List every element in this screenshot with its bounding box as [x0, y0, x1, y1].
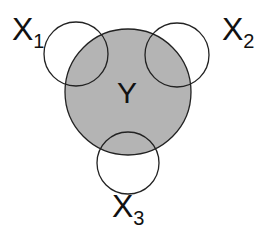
- venn-diagram: Y X1 X2 X3: [0, 0, 266, 234]
- label-y: Y: [117, 76, 137, 109]
- label-x1: X1: [12, 11, 44, 52]
- label-x2: X2: [222, 11, 254, 52]
- label-x3: X3: [112, 188, 144, 229]
